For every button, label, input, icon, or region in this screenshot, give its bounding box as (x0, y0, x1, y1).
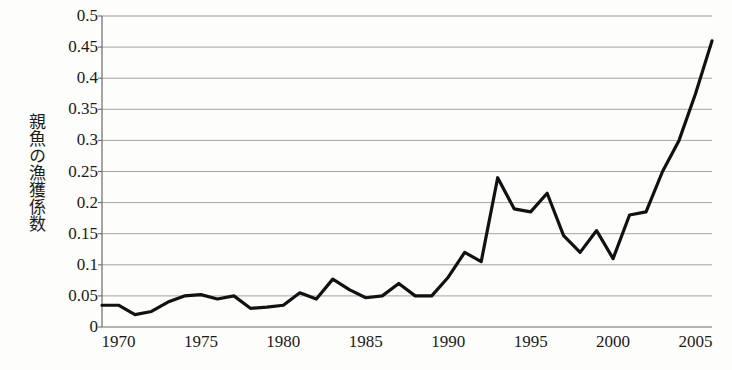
x-axis-tick-label: 1970 (101, 332, 135, 352)
x-axis-tick-label: 1995 (514, 332, 548, 352)
x-axis-tick-label: 1980 (266, 332, 300, 352)
x-axis-tick-label: 1985 (349, 332, 383, 352)
x-axis-tick-label: 1975 (184, 332, 218, 352)
line-chart-figure: 親魚の漁獲係数 00.050.10.150.20.250.30.350.40.4… (0, 0, 732, 370)
x-axis-tick-label: 2000 (596, 332, 630, 352)
x-axis-tick-label-group: 19701975198019851990199520002005 (0, 0, 732, 370)
x-axis-tick-label: 2005 (679, 332, 713, 352)
x-axis-tick-label: 1990 (431, 332, 465, 352)
